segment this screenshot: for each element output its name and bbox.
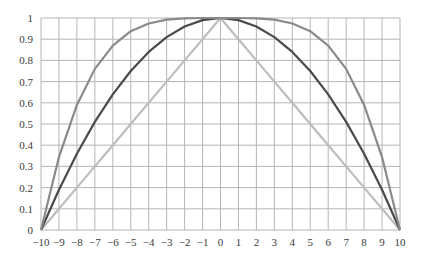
x-tick-label: 7 bbox=[343, 236, 349, 248]
x-tick-label: 0 bbox=[218, 236, 224, 248]
y-tick-label: 0.6 bbox=[19, 97, 33, 109]
x-axis-tick-labels: −10−9−8−7−6−5−4−3−2−1012345678910 bbox=[32, 236, 406, 248]
x-tick-label: 4 bbox=[290, 236, 296, 248]
y-tick-label: 0.9 bbox=[19, 33, 33, 45]
line-chart: −10−9−8−7−6−5−4−3−2−1012345678910 00.10.… bbox=[0, 0, 421, 263]
x-tick-label: −9 bbox=[53, 236, 65, 248]
x-tick-label: −10 bbox=[32, 236, 50, 248]
y-tick-label: 0.4 bbox=[19, 139, 33, 151]
x-tick-label: −8 bbox=[71, 236, 83, 248]
x-tick-label: −4 bbox=[143, 236, 155, 248]
y-tick-label: 0 bbox=[28, 224, 34, 236]
x-tick-label: −5 bbox=[125, 236, 137, 248]
x-tick-label: −3 bbox=[161, 236, 173, 248]
x-tick-label: 1 bbox=[236, 236, 242, 248]
y-tick-label: 0.1 bbox=[19, 203, 33, 215]
x-tick-label: 10 bbox=[395, 236, 407, 248]
y-tick-label: 1 bbox=[28, 12, 34, 24]
y-tick-label: 0.7 bbox=[19, 76, 33, 88]
x-tick-label: 8 bbox=[361, 236, 367, 248]
y-tick-label: 0.8 bbox=[19, 54, 33, 66]
x-tick-label: 9 bbox=[379, 236, 385, 248]
x-tick-label: 2 bbox=[254, 236, 260, 248]
y-tick-label: 0.5 bbox=[19, 118, 33, 130]
x-tick-label: 3 bbox=[272, 236, 278, 248]
y-tick-label: 0.2 bbox=[19, 182, 33, 194]
x-tick-label: −2 bbox=[179, 236, 191, 248]
y-tick-label: 0.3 bbox=[19, 160, 33, 172]
x-tick-label: −7 bbox=[89, 236, 101, 248]
x-tick-label: −1 bbox=[197, 236, 209, 248]
y-axis-tick-labels: 00.10.20.30.40.50.60.70.80.91 bbox=[19, 12, 33, 236]
x-tick-label: 5 bbox=[308, 236, 314, 248]
x-tick-label: 6 bbox=[325, 236, 331, 248]
x-tick-label: −6 bbox=[107, 236, 119, 248]
